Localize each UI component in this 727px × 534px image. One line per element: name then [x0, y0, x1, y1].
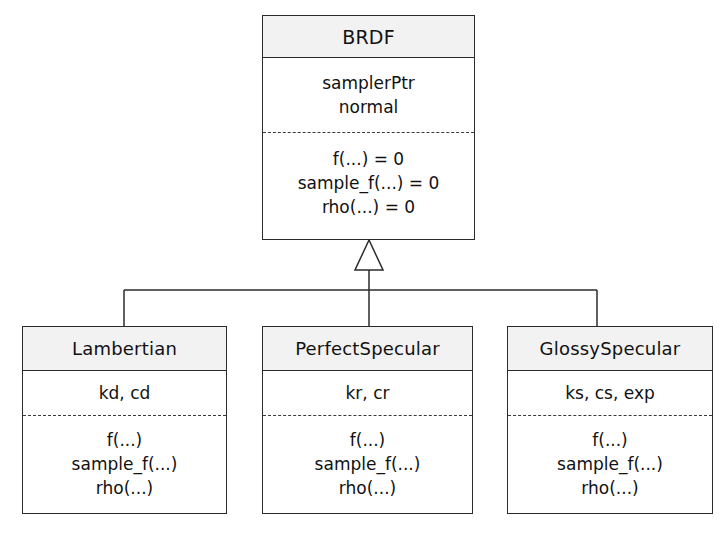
attribute-item: samplerPtr	[322, 71, 415, 95]
class-name-perfectspecular: PerfectSpecular	[263, 327, 472, 371]
method-item: f(...)	[592, 428, 627, 452]
class-name-glossyspecular: GlossySpecular	[508, 327, 712, 371]
uml-class-diagram: BRDF samplerPtr normal f(...) = 0 sample…	[0, 0, 727, 534]
method-item: f(...)	[107, 428, 142, 452]
attribute-item: kr, cr	[346, 381, 390, 405]
methods-compartment-glossyspecular: f(...) sample_f(...) rho(...)	[508, 416, 712, 513]
method-item: f(...)	[350, 428, 385, 452]
method-item: rho(...)	[339, 476, 396, 500]
attributes-compartment-glossyspecular: ks, cs, exp	[508, 371, 712, 415]
method-item: sample_f(...) = 0	[298, 171, 440, 195]
method-item: sample_f(...)	[72, 452, 178, 476]
method-item: rho(...)	[96, 476, 153, 500]
method-item: f(...) = 0	[333, 147, 404, 171]
class-box-brdf: BRDF samplerPtr normal f(...) = 0 sample…	[262, 15, 475, 240]
method-item: rho(...) = 0	[322, 195, 415, 219]
attributes-compartment-perfectspecular: kr, cr	[263, 371, 472, 415]
attribute-item: normal	[339, 95, 399, 119]
methods-compartment-perfectspecular: f(...) sample_f(...) rho(...)	[263, 416, 472, 513]
method-item: rho(...)	[581, 476, 638, 500]
attributes-compartment-lambertian: kd, cd	[23, 371, 226, 415]
method-item: sample_f(...)	[315, 452, 421, 476]
generalization-triangle-icon	[355, 240, 383, 270]
attributes-compartment-brdf: samplerPtr normal	[263, 58, 474, 132]
attribute-item: ks, cs, exp	[565, 381, 655, 405]
methods-compartment-brdf: f(...) = 0 sample_f(...) = 0 rho(...) = …	[263, 133, 474, 239]
methods-compartment-lambertian: f(...) sample_f(...) rho(...)	[23, 416, 226, 513]
class-box-perfectspecular: PerfectSpecular kr, cr f(...) sample_f(.…	[262, 326, 473, 514]
method-item: sample_f(...)	[557, 452, 663, 476]
class-box-glossyspecular: GlossySpecular ks, cs, exp f(...) sample…	[507, 326, 713, 514]
class-name-lambertian: Lambertian	[23, 327, 226, 371]
class-box-lambertian: Lambertian kd, cd f(...) sample_f(...) r…	[22, 326, 227, 514]
attribute-item: kd, cd	[99, 381, 151, 405]
class-name-brdf: BRDF	[263, 16, 474, 58]
